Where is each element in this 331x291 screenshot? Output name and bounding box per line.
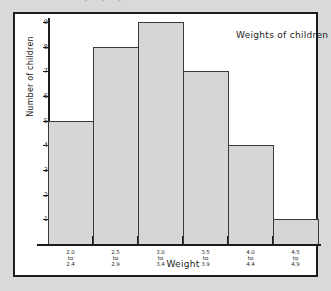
bar <box>138 22 184 244</box>
bar <box>183 71 229 244</box>
chart-inner-frame: Number of children 123456789 Weights of … <box>17 16 314 273</box>
x-tick-mark <box>227 236 228 246</box>
chart-frame: Number of children 123456789 Weights of … <box>13 12 318 277</box>
y-tick-label: 6 <box>30 92 48 100</box>
clipped-header-sliver: . . . <box>0 0 331 11</box>
x-tick-mark <box>272 236 273 246</box>
y-tick-label: 8 <box>30 43 48 51</box>
bar <box>273 219 319 244</box>
plot-area: Weights of children <box>48 22 318 244</box>
y-tick-label: 1 <box>30 215 48 223</box>
x-tick-mark <box>92 236 93 246</box>
y-axis-ticks: 123456789 <box>17 16 48 252</box>
y-tick-label: 2 <box>30 191 48 199</box>
y-tick-label: 7 <box>30 67 48 75</box>
bar-series <box>48 22 318 244</box>
y-tick-label: 4 <box>30 141 48 149</box>
x-tick-mark <box>182 236 183 246</box>
x-tick-mark <box>137 236 138 246</box>
clipped-header-text: . . . <box>84 0 126 4</box>
y-tick-label: 3 <box>30 166 48 174</box>
y-tick-label: 5 <box>30 117 48 125</box>
x-axis-title: Weight <box>48 259 318 269</box>
chart-title: Weights of children <box>236 30 328 40</box>
y-tick-label: 9 <box>30 18 48 26</box>
bar <box>48 121 94 244</box>
bar <box>228 145 274 244</box>
bar <box>93 47 139 244</box>
